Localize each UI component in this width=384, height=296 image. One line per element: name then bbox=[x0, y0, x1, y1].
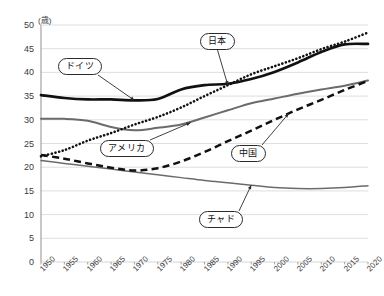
y-axis-tick-label: 0 bbox=[12, 257, 34, 267]
callout-チャド: チャド bbox=[199, 211, 243, 228]
y-axis-tick-label: 50 bbox=[12, 20, 34, 30]
series-line-日本 bbox=[41, 33, 368, 157]
y-axis-tick-label: 25 bbox=[12, 139, 34, 149]
y-axis-tick-label: 35 bbox=[12, 91, 34, 101]
y-axis-tick-label: 30 bbox=[12, 115, 34, 125]
series-line-アメリカ bbox=[41, 81, 368, 171]
callout-中国: 中国 bbox=[231, 145, 266, 162]
y-axis-tick-label: 10 bbox=[12, 210, 34, 220]
y-axis-unit-label: (歳) bbox=[38, 14, 51, 25]
callout-アメリカ: アメリカ bbox=[100, 140, 154, 157]
y-axis-tick-label: 20 bbox=[12, 162, 34, 172]
y-axis-tick-label: 45 bbox=[12, 44, 34, 54]
y-axis-tick-label: 5 bbox=[12, 233, 34, 243]
callout-ドイツ: ドイツ bbox=[58, 58, 102, 75]
callout-日本: 日本 bbox=[200, 33, 235, 50]
data-series-group bbox=[41, 33, 368, 189]
y-axis-tick-label: 15 bbox=[12, 186, 34, 196]
series-line-中国 bbox=[41, 80, 368, 130]
y-axis-tick-label: 40 bbox=[12, 67, 34, 77]
